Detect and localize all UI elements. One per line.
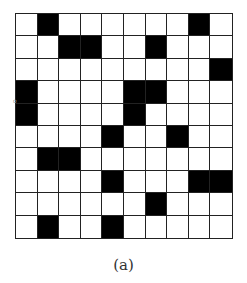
grid-cell-empty — [210, 193, 232, 215]
grid-cell-empty — [38, 81, 60, 103]
grid-cell-empty — [167, 14, 189, 36]
grid-cell-empty — [146, 14, 168, 36]
grid-cell-filled — [210, 59, 232, 81]
grid-cell-filled — [38, 148, 60, 170]
grid-cell-filled — [189, 171, 211, 193]
grid-cell-empty — [189, 126, 211, 148]
grid-cell-empty — [102, 148, 124, 170]
grid-cell-empty — [81, 126, 103, 148]
margin-mark: o — [13, 97, 17, 104]
grid-cell-filled — [124, 81, 146, 103]
grid-cell-empty — [81, 216, 103, 238]
grid-cell-empty — [81, 59, 103, 81]
grid-cell-empty — [59, 14, 81, 36]
grid-cell-empty — [189, 216, 211, 238]
grid-cell-empty — [210, 81, 232, 103]
grid-cell-empty — [167, 171, 189, 193]
grid-cell-filled — [59, 148, 81, 170]
grid-cell-empty — [59, 126, 81, 148]
grid-cell-empty — [124, 59, 146, 81]
grid-cell-empty — [189, 36, 211, 58]
grid-cell-filled — [16, 104, 38, 126]
grid-cell-empty — [210, 104, 232, 126]
grid-cell-empty — [124, 126, 146, 148]
grid-cell-filled — [146, 81, 168, 103]
grid-cell-empty — [167, 216, 189, 238]
grid-cell-empty — [38, 36, 60, 58]
grid-cell-filled — [102, 216, 124, 238]
grid-cell-empty — [38, 59, 60, 81]
grid-cell-empty — [81, 193, 103, 215]
grid-cell-empty — [102, 59, 124, 81]
grid-cell-filled — [210, 171, 232, 193]
grid-cell-empty — [16, 36, 38, 58]
grid-cell-empty — [210, 148, 232, 170]
grid-cell-empty — [146, 104, 168, 126]
grid-cell-empty — [38, 193, 60, 215]
grid-cell-filled — [102, 126, 124, 148]
grid-cell-empty — [16, 59, 38, 81]
grid-cell-empty — [102, 81, 124, 103]
grid-cell-empty — [16, 126, 38, 148]
grid-cell-empty — [124, 148, 146, 170]
grid-cell-empty — [59, 171, 81, 193]
grid-cell-filled — [146, 36, 168, 58]
grid-cell-filled — [38, 14, 60, 36]
grid-cell-empty — [124, 36, 146, 58]
grid-cell-empty — [102, 14, 124, 36]
grid-cell-empty — [38, 126, 60, 148]
grid-cell-empty — [146, 216, 168, 238]
grid-cell-empty — [38, 171, 60, 193]
grid-cell-empty — [16, 171, 38, 193]
grid-cell-empty — [146, 148, 168, 170]
grid-cell-empty — [189, 148, 211, 170]
grid-cell-empty — [59, 59, 81, 81]
grid-cell-empty — [81, 14, 103, 36]
grid-cell-empty — [38, 104, 60, 126]
grid-cell-empty — [167, 148, 189, 170]
grid-cell-filled — [38, 216, 60, 238]
grid-cell-filled — [146, 193, 168, 215]
grid-cell-empty — [81, 104, 103, 126]
grid-cell-empty — [124, 14, 146, 36]
binary-grid — [15, 13, 233, 239]
grid-cell-empty — [189, 59, 211, 81]
figure-caption: (a) — [0, 256, 247, 274]
grid-cell-empty — [167, 104, 189, 126]
grid-cell-empty — [167, 81, 189, 103]
grid-cell-empty — [189, 104, 211, 126]
grid-cell-filled — [59, 36, 81, 58]
grid-cell-empty — [102, 36, 124, 58]
grid-cell-empty — [146, 59, 168, 81]
grid-cell-filled — [167, 126, 189, 148]
grid-cell-filled — [124, 104, 146, 126]
grid-cell-empty — [210, 216, 232, 238]
grid-cell-empty — [59, 193, 81, 215]
grid-cell-filled — [189, 14, 211, 36]
grid-cell-empty — [16, 193, 38, 215]
grid-cell-empty — [210, 126, 232, 148]
grid-cell-empty — [189, 81, 211, 103]
grid-cell-empty — [167, 59, 189, 81]
grid-cell-empty — [16, 148, 38, 170]
grid-cell-filled — [81, 36, 103, 58]
grid-cell-empty — [16, 216, 38, 238]
grid-cell-empty — [146, 171, 168, 193]
grid-cell-empty — [167, 193, 189, 215]
grid-cell-empty — [210, 14, 232, 36]
grid-cell-empty — [124, 193, 146, 215]
grid-cell-empty — [102, 104, 124, 126]
grid-cell-empty — [167, 36, 189, 58]
grid-cell-empty — [124, 171, 146, 193]
grid-cell-filled — [16, 81, 38, 103]
grid-cell-empty — [189, 193, 211, 215]
grid-cell-empty — [102, 193, 124, 215]
grid-cell-empty — [59, 81, 81, 103]
grid-cell-empty — [210, 36, 232, 58]
grid-cell-empty — [124, 216, 146, 238]
grid-cell-empty — [16, 14, 38, 36]
grid-cell-empty — [146, 126, 168, 148]
grid-cell-empty — [59, 216, 81, 238]
grid-cell-empty — [81, 148, 103, 170]
grid-cell-empty — [81, 81, 103, 103]
